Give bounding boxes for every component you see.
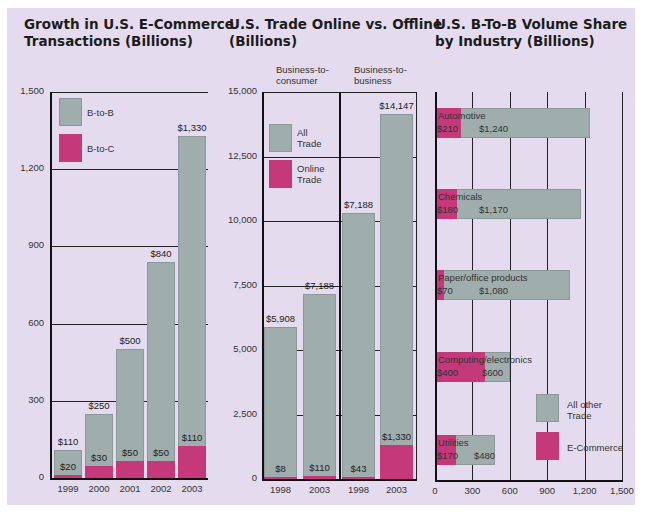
y-tick-label: 1,500 [20,85,44,96]
bar-value-label: $1,330 [172,122,212,133]
x-tick-label: 300 [457,485,487,496]
y-tick-label: 5,000 [233,343,257,354]
industry-label: Chemicals [438,191,482,203]
top-gridline [50,92,208,93]
chart1-title: Growth in U.S. E-Commerce Transactions (… [24,16,234,50]
bar-value-label-other: $1,080 [479,285,508,297]
bar-value-label-other: $1,240 [479,123,508,135]
bar-b2b [116,349,144,478]
bar-value-label-other: $600 [482,367,503,379]
industry-label: Computing/electronics [438,354,532,366]
bar-value-label-ecommerce: $400 [437,367,458,379]
y-tick-label: 0 [39,471,44,482]
legend-swatch-e-commerce [536,432,559,460]
bar-value-label: $250 [79,400,119,411]
chart2-title-line2: (Billions) [229,33,442,50]
y-tick-label: 2,500 [233,408,257,419]
bar-all-trade [342,213,375,479]
group-label-b2b-line2: business [354,75,407,86]
x-tick-label: 1,200 [570,485,600,496]
chart1-title-line1: Growth in U.S. E-Commerce [24,16,234,33]
bar-value-label-other: $480 [474,450,495,462]
industry-label: Utilities [438,437,469,449]
y-tick-label: 0 [252,472,257,483]
y-axis [262,92,264,480]
x-tick-label: 600 [495,485,525,496]
y-tick-label: 600 [28,317,44,328]
bar-b2c [147,461,175,478]
y-tick-label: 15,000 [228,85,257,96]
legend-label-b2b: B-to-B [87,107,114,118]
chart3-title: U.S. B-To-B Volume Share by Industry (Bi… [435,16,627,50]
right-border [416,92,417,479]
legend-label-line: Trade [297,138,321,149]
bar-value-label: $50 [141,447,181,458]
bar-b2c [116,461,144,478]
chart2-title: U.S. Trade Online vs. Offline (Billions) [229,16,442,50]
bar-value-label: $840 [141,248,181,259]
legend-label-line: Online [297,163,324,174]
group-divider [339,92,341,479]
group-label-b2c: Business-to- consumer [276,64,329,86]
bar-value-label: $14,147 [374,100,419,111]
bar-all-trade [303,294,336,479]
legend-label-all-trade: AllTrade [297,127,321,149]
group-label-b2b: Business-to- business [354,64,407,86]
legend-label-all-other-trade: All otherTrade [567,399,602,421]
industry-label: Paper/office products [438,272,528,284]
bar-value-label: $7,188 [336,199,381,210]
bar-value-label: $110 [172,432,212,443]
y-tick-label: 900 [28,239,44,250]
y-tick-label: 300 [28,394,44,405]
legend-label-e-commerce: E-Commerce [567,442,623,453]
industry-label: Automotive [438,110,486,122]
bar-b2c [178,446,206,478]
legend-swatch-b2b [59,98,82,126]
chart1-title-line2: Transactions (Billions) [24,33,234,50]
gridline [622,92,623,480]
bar-b2b [147,262,175,478]
x-axis [262,479,417,481]
bar-value-label-ecommerce: $210 [437,123,458,135]
bar-value-label-ecommerce: $170 [437,450,458,462]
y-axis [50,92,52,479]
group-label-b2b-line1: Business-to- [354,64,407,75]
bar-value-label-other: $1,170 [479,204,508,216]
bar-value-label: $5,908 [258,313,303,324]
bar-value-label-ecommerce: $180 [437,204,458,216]
legend-label-line: All other [567,399,602,410]
legend-label-online-trade: OnlineTrade [297,163,324,185]
y-tick-label: 12,500 [228,150,257,161]
legend-swatch-online-trade [269,160,292,188]
x-tick-label: 900 [532,485,562,496]
bar-value-label: $500 [110,335,150,346]
x-tick-label: 2003 [172,483,212,494]
legend-label-line: All [297,127,321,138]
y-tick-label: 10,000 [228,214,257,225]
gridline [585,92,586,480]
bar-all-trade [264,327,297,479]
y-tick-label: 1,200 [20,162,44,173]
x-tick-label: 2003 [374,484,419,495]
legend-label-line: Trade [567,410,602,421]
chart3-title-line1: U.S. B-To-B Volume Share [435,16,627,33]
bar-value-label: $1,330 [374,431,419,442]
bar-b2b [178,136,206,478]
bar-value-label: $110 [48,436,88,447]
bar-all-trade [380,114,413,479]
y-axis [435,92,437,481]
x-tick-label: 0 [420,485,450,496]
bar-b2c [85,466,113,478]
y-tick-label: 7,500 [233,279,257,290]
legend-swatch-all-trade [269,124,292,152]
group-label-b2c-line2: consumer [276,75,329,86]
chart3-title-line2: by Industry (Billions) [435,33,627,50]
x-axis [50,478,208,480]
chart2-title-line1: U.S. Trade Online vs. Offline [229,16,442,33]
bar-online-trade [380,445,413,479]
legend-swatch-all-other-trade [536,394,559,422]
legend-swatch-b2c [59,134,82,162]
legend-label-b2c: B-to-C [87,143,114,154]
x-axis [435,480,623,482]
bar-value-label: $7,188 [297,280,342,291]
